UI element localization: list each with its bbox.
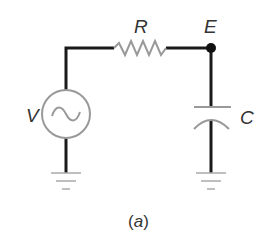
caption-letter: a bbox=[134, 212, 143, 231]
source-label: V bbox=[26, 105, 41, 126]
figure-caption: (a) bbox=[128, 212, 149, 231]
resistor-label: R bbox=[134, 16, 148, 37]
caption-close: ) bbox=[143, 212, 149, 231]
junction-node-icon bbox=[206, 43, 216, 53]
rc-circuit-diagram: V R E C (a) bbox=[0, 0, 274, 249]
ac-source-icon bbox=[42, 90, 90, 138]
ground-icon-left bbox=[51, 173, 81, 189]
sine-wave-icon bbox=[52, 108, 80, 121]
capacitor-label: C bbox=[240, 107, 254, 128]
wire-source-to-resistor bbox=[66, 48, 114, 90]
ground-icon-right bbox=[196, 173, 226, 189]
wires bbox=[66, 48, 211, 173]
resistor-icon bbox=[114, 41, 166, 55]
node-label: E bbox=[204, 16, 217, 37]
